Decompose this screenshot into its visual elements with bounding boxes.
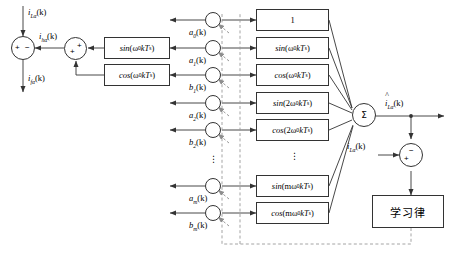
coef-ellipsis: ⋮: [209, 155, 218, 164]
basis-constant: 1: [256, 9, 329, 31]
basis-sin-2w0: sin(2ω0kTs): [256, 92, 329, 114]
coef-b2: b2(k): [189, 138, 206, 149]
learning-law-block: 学习律: [372, 195, 444, 228]
summation-node: Σ: [352, 103, 376, 127]
label-load-current: iLα(k): [28, 8, 46, 19]
coef-bm: bm(k): [189, 221, 207, 232]
sum-left-plus: +: [15, 44, 20, 52]
coef-a0: a0(k): [189, 28, 206, 39]
cos-block-left: cos(ω0kTs): [104, 64, 170, 86]
multiplier-a1: [205, 40, 221, 56]
basis-sin-mw0: sin(mω0kTs): [256, 175, 329, 197]
label-harmonic-current: ihα(k): [39, 32, 57, 43]
multiplier-b2: [205, 122, 221, 138]
hat-accent: ^: [385, 92, 388, 100]
multiplier-am: [205, 178, 221, 194]
coef-a2: a2(k): [189, 111, 206, 122]
coef-a1: a1(k): [189, 56, 206, 67]
label-error-input: iLα(k): [347, 142, 365, 153]
sum-mid-plus-b: +: [77, 42, 82, 50]
coef-b1: b1(k): [189, 83, 206, 94]
learning-law-label: 学习律: [390, 204, 426, 220]
basis-ellipsis: ⋮: [290, 152, 299, 161]
sum-mid-plus-a: +: [70, 48, 75, 56]
sum-node-mid: [64, 37, 87, 60]
sin-block-left: sin(ω0kTs): [104, 37, 170, 59]
multiplier-bm: [205, 205, 221, 221]
multiplier-a2: [205, 95, 221, 111]
sum-error-plus: +: [404, 155, 409, 163]
sigma-glyph: Σ: [361, 110, 367, 120]
coef-am: am(k): [189, 194, 207, 205]
multiplier-b1: [205, 67, 221, 83]
sum-left-minus: −: [25, 44, 30, 52]
multiplier-a0: [205, 12, 221, 28]
basis-cos-w0: cos(ω0kTs): [256, 64, 329, 86]
diagram-canvas: + − + + iLα(k) ihα(k) ifα(k) sin(ω0kTs) …: [0, 0, 450, 260]
label-estimated-current: ^ iLα(k): [385, 99, 403, 110]
basis-cos-mw0: cos(mω0kTs): [256, 202, 329, 224]
basis-sin-w0: sin(ω0kTs): [256, 37, 329, 59]
sum-error-minus: −: [409, 147, 414, 155]
basis-cos-2w0: cos(2ω0kTs): [256, 119, 329, 141]
output-tap-dot: [409, 114, 413, 118]
label-fundamental-current: ifα(k): [28, 74, 45, 85]
